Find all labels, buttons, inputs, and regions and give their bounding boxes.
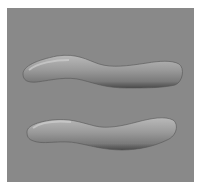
lower-cell [27, 118, 176, 150]
cells-drawing [7, 8, 194, 182]
microscopy-panel [7, 8, 194, 182]
upper-cell [23, 55, 182, 88]
